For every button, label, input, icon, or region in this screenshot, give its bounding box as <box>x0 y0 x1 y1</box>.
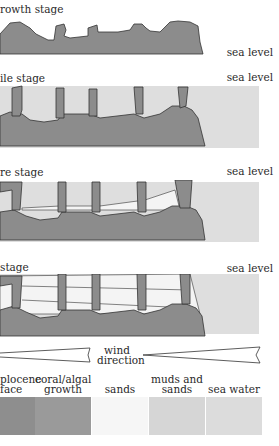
stage-label-final: stage <box>0 262 29 273</box>
legend-label-coral: coral/algal growth <box>35 374 91 394</box>
sea-level-label-2: sea level <box>227 71 273 83</box>
growth-stage-diagram <box>0 14 279 74</box>
mature-stage-diagram <box>0 180 279 250</box>
legend-line2: face <box>0 384 35 394</box>
legend-label-plocene: plocene face <box>0 374 35 394</box>
legend-line2: sands <box>92 384 148 394</box>
legend-swatch-sands <box>92 397 148 435</box>
wind-label: wind direction <box>97 345 137 365</box>
final-stage-diagram <box>0 274 279 344</box>
legend-label-sands: sands <box>92 374 148 394</box>
legend-line2: sea water <box>206 384 262 394</box>
legend-line2: sands <box>149 384 205 394</box>
sea-level-label-3: sea level <box>227 165 273 177</box>
legend-label-sea-water: sea water <box>206 374 262 394</box>
sea-level-label-4: sea level <box>227 262 273 274</box>
stage-label-pile: ile stage <box>0 73 45 84</box>
legend-swatch-coral <box>35 397 91 435</box>
legend-line2: growth <box>35 384 91 394</box>
wind-label-line2: direction <box>97 355 137 365</box>
stage-label-mature: re stage <box>0 167 43 178</box>
legend-swatch-muds <box>149 397 205 435</box>
legend-swatch-sea-water <box>206 397 262 435</box>
legend-label-muds: muds and sands <box>149 374 205 394</box>
legend-swatch-plocene <box>0 397 35 435</box>
pile-stage-diagram <box>0 84 279 154</box>
